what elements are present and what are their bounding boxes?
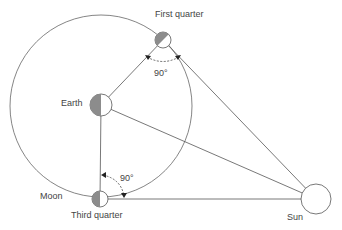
angle-arc-first-quarter	[147, 57, 179, 62]
moon-label: Moon	[40, 191, 63, 201]
third-quarter-moon-icon	[92, 191, 108, 207]
earth-icon	[90, 94, 112, 116]
first-quarter-to-sun-line	[163, 40, 316, 199]
first-quarter-moon-icon	[155, 32, 171, 48]
third-quarter-label: Third quarter	[71, 210, 123, 220]
arrow-head-icon	[121, 193, 127, 198]
sun-label: Sun	[287, 212, 303, 222]
arrow-head-icon	[101, 172, 106, 178]
earth-to-third-quarter-line	[100, 105, 101, 199]
angle-label-top: 90°	[154, 68, 168, 78]
earth-to-sun-line	[101, 105, 316, 199]
earth-label: Earth	[61, 98, 83, 108]
sun-icon	[301, 184, 331, 214]
angle-label-bottom: 90°	[120, 173, 134, 183]
first-quarter-label: First quarter	[155, 9, 204, 19]
